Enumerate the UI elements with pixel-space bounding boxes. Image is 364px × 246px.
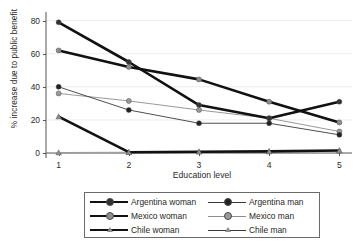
chart-canvas: [0, 0, 364, 185]
plot-area: % increase due to public benefit 0204060…: [0, 0, 364, 185]
legend-swatch: [208, 196, 246, 208]
circle-marker-icon: [106, 198, 114, 206]
legend-item[interactable]: Argentina woman: [85, 195, 203, 209]
legend-swatch: [90, 210, 128, 222]
circle-marker-icon: [224, 198, 232, 206]
triangle-marker-icon: [225, 227, 231, 232]
legend-label: Argentina man: [249, 197, 303, 207]
legend-swatch: [90, 224, 128, 236]
circle-marker-icon: [224, 212, 232, 220]
legend-item[interactable]: Chile woman: [85, 223, 203, 237]
series-layer: [56, 20, 342, 155]
legend-label: Mexico man: [249, 211, 294, 221]
chart-figure: % increase due to public benefit 0204060…: [0, 0, 364, 246]
circle-marker-icon: [106, 212, 114, 220]
legend-swatch: [208, 224, 246, 236]
legend-label: Chile man: [249, 225, 287, 235]
series-argentina-woman: [56, 20, 342, 121]
legend-swatch: [208, 210, 246, 222]
legend-item[interactable]: Mexico woman: [85, 209, 203, 223]
triangle-marker-icon: [107, 227, 113, 232]
x-axis-label: Education level: [46, 170, 358, 180]
legend-swatch: [90, 196, 128, 208]
legend-label: Mexico woman: [131, 211, 187, 221]
legend-item[interactable]: Chile man: [203, 223, 321, 237]
legend-item[interactable]: Mexico man: [203, 209, 321, 223]
axis-lines: [46, 12, 352, 158]
legend-label: Chile woman: [131, 225, 179, 235]
legend-label: Argentina woman: [131, 197, 196, 207]
legend-item[interactable]: Argentina man: [203, 195, 321, 209]
legend: Argentina womanArgentina manMexico woman…: [84, 192, 320, 238]
